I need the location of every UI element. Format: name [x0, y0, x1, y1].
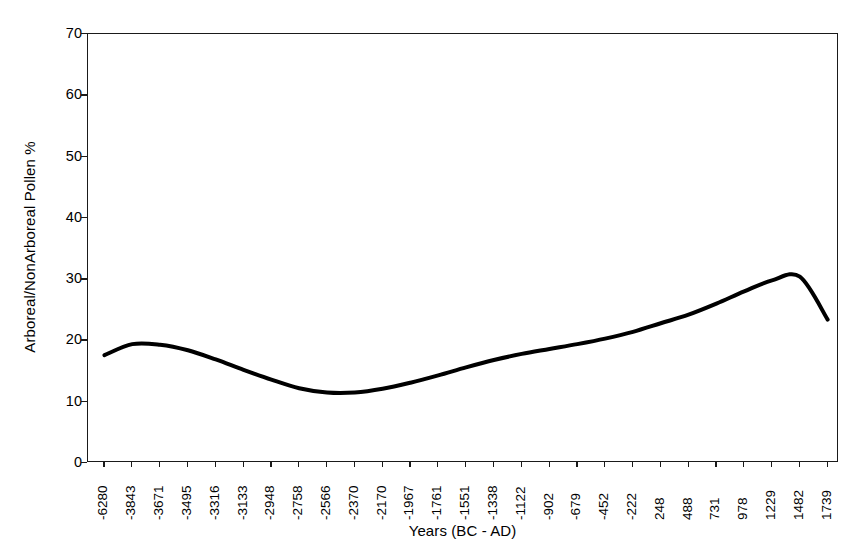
- x-axis-tick-mark: [688, 462, 689, 467]
- x-axis-tick-label: -1122: [514, 470, 528, 520]
- x-axis-tick-label: -2170: [375, 470, 389, 520]
- y-axis-tick-labels: 010203040506070: [46, 33, 82, 462]
- x-axis-tick-label: -3495: [180, 470, 194, 520]
- x-axis-tick-label: 1229: [764, 470, 778, 520]
- y-axis-tick-label: 20: [46, 332, 82, 346]
- x-axis-tick-label: -2758: [291, 470, 305, 520]
- x-axis-tick-label: -1761: [430, 470, 444, 520]
- x-axis-tick-label: -452: [597, 470, 611, 520]
- y-axis-tick-mark: [81, 217, 87, 218]
- x-axis-tick-label: -902: [542, 470, 556, 520]
- x-axis-tick-mark: [131, 462, 132, 467]
- x-axis-tick-label: -3133: [236, 470, 250, 520]
- x-axis-tick-mark: [103, 462, 104, 467]
- x-axis-tick-mark: [715, 462, 716, 467]
- x-axis-title: Years (BC - AD): [87, 522, 838, 539]
- y-axis-tick-label: 40: [46, 210, 82, 224]
- x-axis-tick-label: -1551: [458, 470, 472, 520]
- y-axis-tick-label: 70: [46, 26, 82, 40]
- x-axis-tick-mark: [660, 462, 661, 467]
- x-axis-tick-mark: [493, 462, 494, 467]
- x-axis-tick-mark: [382, 462, 383, 467]
- y-axis-tick-mark: [81, 462, 87, 463]
- x-axis-tick-label: -2948: [263, 470, 277, 520]
- x-axis-tick-label: -1338: [486, 470, 500, 520]
- x-axis-tick-mark: [549, 462, 550, 467]
- x-axis-tick-label: 248: [653, 470, 667, 520]
- series-line: [88, 34, 838, 462]
- x-axis-tick-label: 1482: [792, 470, 806, 520]
- y-axis-tick-mark: [81, 94, 87, 95]
- x-axis-tick-label: -1967: [402, 470, 416, 520]
- x-axis-tick-label: 1739: [820, 470, 834, 520]
- x-axis-tick-mark: [465, 462, 466, 467]
- x-axis-tick-mark: [354, 462, 355, 467]
- x-axis-tick-mark: [632, 462, 633, 467]
- x-axis-tick-label: -3843: [124, 470, 138, 520]
- plot-area: [87, 33, 838, 462]
- x-axis-tick-labels: -6280-3843-3671-3495-3316-3133-2948-2758…: [87, 470, 838, 520]
- x-axis-tick-label: -2566: [319, 470, 333, 520]
- x-axis-tick-mark: [799, 462, 800, 467]
- y-axis-tick-mark: [81, 339, 87, 340]
- x-axis-tick-marks: [87, 462, 838, 468]
- x-axis-tick-mark: [604, 462, 605, 467]
- y-axis-tick-label: 50: [46, 149, 82, 163]
- x-axis-tick-mark: [437, 462, 438, 467]
- x-axis-tick-label: -6280: [96, 470, 110, 520]
- x-axis-tick-mark: [298, 462, 299, 467]
- x-axis-tick-label: -222: [625, 470, 639, 520]
- x-axis-tick-mark: [159, 462, 160, 467]
- x-axis-tick-mark: [576, 462, 577, 467]
- x-axis-tick-label: -3671: [152, 470, 166, 520]
- y-axis-tick-mark: [81, 156, 87, 157]
- y-axis-tick-mark: [81, 33, 87, 34]
- x-axis-tick-mark: [771, 462, 772, 467]
- x-axis-tick-mark: [743, 462, 744, 467]
- x-axis-tick-mark: [521, 462, 522, 467]
- x-axis-tick-mark: [243, 462, 244, 467]
- x-axis-tick-mark: [827, 462, 828, 467]
- y-axis-tick-label: 60: [46, 87, 82, 101]
- x-axis-tick-label: 978: [736, 470, 750, 520]
- x-axis-tick-mark: [215, 462, 216, 467]
- y-axis-title: Arboreal/NonArboreal Pollen %: [14, 32, 44, 462]
- x-axis-tick-mark: [187, 462, 188, 467]
- x-axis-tick-label: -3316: [208, 470, 222, 520]
- y-axis-tick-mark: [81, 278, 87, 279]
- y-axis-tick-label: 10: [46, 394, 82, 408]
- y-axis-tick-label: 0: [46, 455, 82, 469]
- x-axis-tick-mark: [326, 462, 327, 467]
- y-axis-tick-label: 30: [46, 271, 82, 285]
- y-axis-tick-mark: [81, 401, 87, 402]
- x-axis-tick-label: 731: [708, 470, 722, 520]
- x-axis-tick-label: -2370: [347, 470, 361, 520]
- pollen-line-chart: Arboreal/NonArboreal Pollen % 0102030405…: [0, 0, 867, 559]
- x-axis-tick-label: -679: [569, 470, 583, 520]
- x-axis-tick-label: 488: [681, 470, 695, 520]
- x-axis-tick-mark: [409, 462, 410, 467]
- x-axis-tick-mark: [270, 462, 271, 467]
